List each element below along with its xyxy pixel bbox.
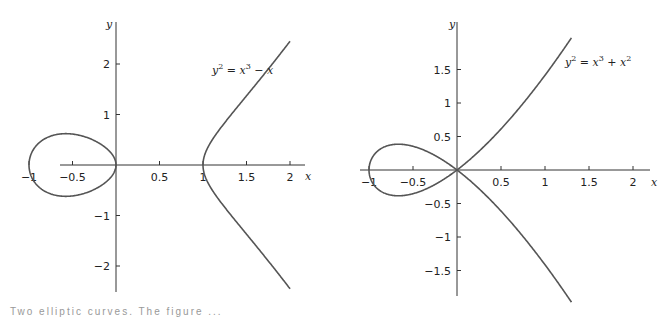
eq-op: + [604, 56, 620, 69]
x-axis-label: x [305, 170, 312, 183]
y-axis-label: y [105, 18, 113, 31]
y-tick-label: 0.5 [434, 131, 452, 144]
y-tick-label: −1.5 [424, 265, 451, 278]
y-tick-label: 1 [103, 109, 110, 122]
x-tick-label: −0.5 [59, 171, 86, 184]
eq-op: − [251, 64, 267, 77]
equation-label: y2 = x3 + x2 [564, 54, 631, 69]
x-tick-label: 1 [542, 176, 549, 189]
x-tick-label: 1.5 [580, 176, 598, 189]
chart-y2-x3-plus-x2: −1−0.50.511.521.510.5−0.5−1−1.5 y x y2 =… [360, 18, 658, 302]
y-tick-label: 2 [103, 58, 110, 71]
y-tick-label: 1.5 [434, 64, 452, 77]
x-axis-label: x [651, 176, 658, 189]
y-tick-label: −2 [94, 260, 110, 273]
x-tick-label: 2 [287, 171, 294, 184]
y-tick-label: −1 [94, 210, 110, 223]
equation-label: y2 = x3 − x [211, 62, 274, 77]
chart-y2-x3-minus-x: −1−0.50.511.5221−1−2 y x y2 = x3 − x [21, 18, 312, 292]
caption-fragment: Two elliptic curves. The figure ... [10, 306, 223, 317]
x-tick-label: −0.5 [400, 176, 427, 189]
x-tick-label: 0.5 [492, 176, 510, 189]
y-tick-label: −0.5 [424, 198, 451, 211]
axes [60, 22, 305, 292]
x-tick-label: 0.5 [151, 171, 169, 184]
eq-rhs2-exp: 2 [626, 54, 631, 63]
elliptic-curves-figure: −1−0.50.511.5221−1−2 y x y2 = x3 − x −1−… [0, 0, 668, 317]
y-axis-label: y [448, 18, 456, 31]
x-tick-label: 2 [630, 176, 637, 189]
y-tick-label: 1 [444, 97, 451, 110]
eq-rhs2: x [267, 64, 274, 77]
y-tick-label: −1 [435, 231, 451, 244]
x-tick-label: 1.5 [238, 171, 256, 184]
